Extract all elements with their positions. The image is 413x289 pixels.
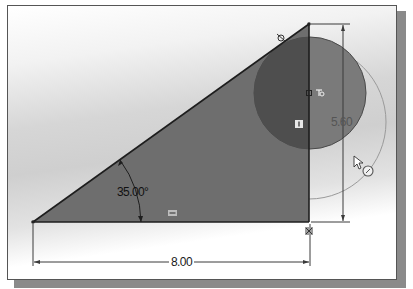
arrow-head-icon bbox=[341, 25, 345, 31]
vertex-top[interactable] bbox=[307, 22, 311, 26]
angle-dimension-label[interactable]: 35.00° bbox=[117, 185, 148, 199]
pointer-cursor-icon bbox=[354, 156, 363, 169]
fix-icon bbox=[305, 227, 313, 235]
arrow-head-icon bbox=[341, 215, 345, 221]
arrow-head-icon bbox=[303, 260, 309, 264]
horizontal-icon bbox=[168, 210, 177, 216]
tangent-icon bbox=[277, 34, 285, 41]
circle-tool-icon bbox=[363, 166, 373, 176]
vertex-bottom-left[interactable] bbox=[31, 220, 35, 224]
arrow-head-icon bbox=[34, 260, 40, 264]
horizontal-dimension-label[interactable]: 8.00 bbox=[169, 255, 194, 269]
sketch-canvas[interactable] bbox=[0, 0, 413, 289]
vertical-icon bbox=[295, 120, 303, 128]
vertical-dimension-label[interactable]: 5.60 bbox=[331, 115, 352, 129]
